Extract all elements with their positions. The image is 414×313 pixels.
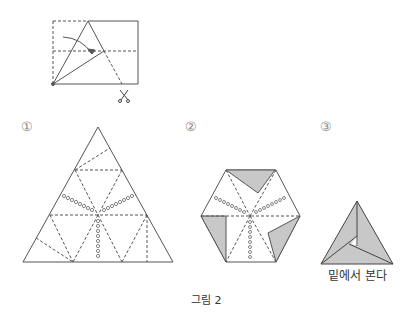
step-2-marker: ②	[185, 119, 197, 134]
step-3-marker: ③	[320, 119, 332, 134]
view-from-below-note: 밑에서 본다	[328, 266, 387, 283]
triangle-crease-pattern	[23, 127, 173, 262]
hexagon-fold	[201, 170, 300, 262]
figure-caption: 그림 2	[191, 291, 222, 307]
rectangle-fold-diagram	[52, 21, 139, 86]
finished-triangle	[321, 201, 393, 264]
mountain-fold-dots	[62, 194, 133, 257]
step-1-marker: ①	[21, 119, 33, 134]
scissors-icon	[119, 90, 130, 103]
